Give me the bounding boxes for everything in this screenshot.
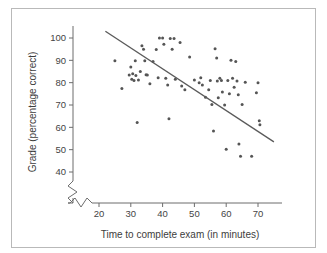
data-point (134, 59, 137, 62)
data-point (228, 92, 231, 95)
y-axis: 405060708090100 (50, 26, 77, 203)
data-point (113, 59, 116, 62)
data-point (201, 83, 204, 86)
data-point (146, 74, 149, 77)
y-tick-label: 40 (55, 166, 66, 177)
x-tick-label: 30 (126, 208, 137, 219)
data-point (255, 91, 258, 94)
data-point (158, 37, 161, 40)
data-point (167, 117, 170, 120)
data-point (199, 76, 202, 79)
data-point (258, 119, 261, 122)
x-tick-label: 70 (253, 208, 264, 219)
data-point (180, 85, 183, 88)
data-point (244, 81, 247, 84)
x-tick-label: 40 (157, 208, 168, 219)
data-point (183, 88, 186, 91)
data-point (157, 76, 160, 79)
x-tick-label: 20 (94, 208, 105, 219)
data-point (139, 70, 142, 73)
data-point (217, 96, 220, 99)
data-point (237, 143, 240, 146)
data-point (234, 60, 237, 63)
data-point (148, 82, 151, 85)
y-tick-label: 60 (55, 122, 66, 133)
regression-line (105, 31, 274, 142)
data-point (221, 91, 224, 94)
data-point (142, 48, 145, 51)
data-point (225, 148, 228, 151)
chart-screenshot: 405060708090100 203040506070 Grade (perc… (0, 0, 327, 253)
data-point (237, 93, 240, 96)
data-point (241, 103, 244, 106)
data-point (161, 37, 164, 40)
data-point (229, 59, 232, 62)
data-point (131, 72, 134, 75)
data-point (231, 77, 234, 80)
data-point (120, 87, 123, 90)
data-point (173, 37, 176, 40)
data-point (129, 66, 132, 69)
data-point (140, 44, 143, 47)
data-point (233, 86, 236, 89)
data-point (250, 155, 253, 158)
data-point (220, 79, 223, 82)
y-tick-label: 80 (55, 77, 66, 88)
data-point (257, 81, 260, 84)
data-point (198, 81, 201, 84)
data-point (216, 79, 219, 82)
x-axis: 203040506070 (68, 198, 282, 219)
x-tick-label: 50 (189, 208, 200, 219)
scatter-plot: 405060708090100 203040506070 Grade (perc… (0, 0, 327, 253)
data-point (226, 79, 229, 82)
data-point (155, 48, 158, 51)
x-axis-title: Time to complete exam (in minutes) (101, 229, 260, 240)
data-point (169, 37, 172, 40)
data-point (223, 104, 226, 107)
y-tick-label: 90 (55, 55, 66, 66)
y-tick-label: 70 (55, 99, 66, 110)
y-tick-label: 100 (50, 32, 66, 43)
data-point (215, 57, 218, 60)
data-point (214, 47, 217, 50)
data-point (134, 74, 137, 77)
data-point (137, 78, 140, 81)
data-point (258, 123, 261, 126)
data-points (113, 37, 261, 158)
y-axis-title: Grade (percentage correct) (27, 52, 38, 173)
x-tick-label: 60 (221, 208, 232, 219)
data-point (162, 43, 165, 46)
data-point (236, 79, 239, 82)
data-point (132, 79, 135, 82)
data-point (166, 83, 169, 86)
data-point (212, 129, 215, 132)
y-tick-label: 50 (55, 144, 66, 155)
data-point (179, 41, 182, 44)
data-point (188, 55, 191, 58)
data-point (209, 79, 212, 82)
data-point (210, 103, 213, 106)
data-point (164, 77, 167, 80)
data-point (171, 48, 174, 51)
data-point (207, 88, 210, 91)
data-point (128, 74, 131, 77)
data-point (143, 59, 146, 62)
data-point (193, 78, 196, 81)
data-point (136, 121, 139, 124)
data-point (239, 155, 242, 158)
